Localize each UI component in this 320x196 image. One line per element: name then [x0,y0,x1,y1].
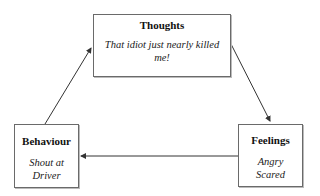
arrow-behaviour-to-thoughts [45,48,91,124]
arrow-thoughts-to-feelings [231,44,270,121]
behaviour-text-line1: Shout at [15,156,78,169]
behaviour-title: Behaviour [15,135,78,147]
behaviour-box: Behaviour Shout at Driver [14,124,79,188]
thoughts-text-line2: me! [94,51,230,64]
feelings-text-line2: Scared [239,168,302,181]
feelings-text: Angry Scared [239,155,302,181]
feelings-text-line1: Angry [239,155,302,168]
feelings-title: Feelings [239,134,302,146]
thoughts-text-line1: That idiot just nearly killed [94,38,230,51]
feelings-box: Feelings Angry Scared [238,124,303,187]
thoughts-box: Thoughts That idiot just nearly killed m… [93,14,231,77]
thoughts-title: Thoughts [94,19,230,31]
behaviour-text: Shout at Driver [15,156,78,182]
behaviour-text-line2: Driver [15,169,78,182]
thoughts-text: That idiot just nearly killed me! [94,38,230,64]
